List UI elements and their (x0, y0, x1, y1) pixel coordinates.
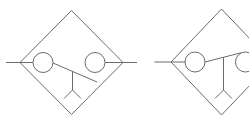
separator-symbol-right[interactable] (155, 9, 250, 115)
diagram-stage (0, 0, 249, 123)
diagram-canvas (0, 0, 249, 123)
float-circle-left (33, 53, 53, 73)
drain-prong-right (224, 90, 233, 99)
float-circle-left (185, 52, 205, 72)
drain-prong-left (64, 90, 73, 99)
float-circle-right (236, 52, 250, 72)
lever-line (53, 63, 97, 82)
float-circle-right (85, 53, 105, 73)
drain-prong-left (215, 90, 224, 99)
drain-prong-right (73, 90, 82, 99)
separator-symbol-left[interactable] (6, 11, 137, 115)
